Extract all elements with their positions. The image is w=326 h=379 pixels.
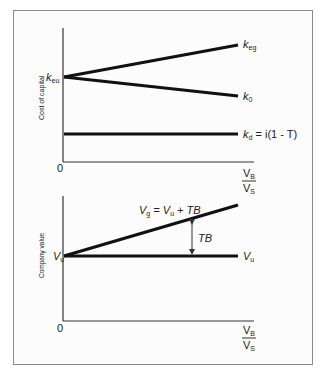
origin-label: 0 xyxy=(57,322,63,334)
keg-label: keg xyxy=(243,38,256,52)
vu-label: Vu xyxy=(243,250,254,263)
vg-label: Vg = Vu + TB xyxy=(139,204,201,218)
k0-label: k0 xyxy=(243,90,253,103)
tb-label: TB xyxy=(198,232,212,244)
keu-label: keu xyxy=(46,71,59,84)
x-axis-fraction-label: VB VS xyxy=(242,324,256,352)
svg-text:VB: VB xyxy=(243,167,255,180)
kd-label: kd = i(1 - T) xyxy=(243,128,297,141)
company-value-chart: Company value Vu Vg = Vu + TB Vu TB 0 VB… xyxy=(38,196,256,352)
cost-of-capital-chart: Cost of capital keu keg k0 kd = i(1 - T)… xyxy=(38,28,297,195)
figure-canvas: Cost of capital keu keg k0 kd = i(1 - T)… xyxy=(0,0,326,379)
svg-text:VB: VB xyxy=(243,324,255,337)
svg-text:VS: VS xyxy=(243,339,255,352)
k0-line xyxy=(64,77,238,96)
y-axis-label: Cost of capital xyxy=(38,75,46,120)
origin-label: 0 xyxy=(57,162,63,174)
keg-line xyxy=(64,45,238,77)
svg-text:VS: VS xyxy=(243,182,255,195)
y-axis-label: Company value xyxy=(38,232,46,278)
x-axis-fraction-label: VB VS xyxy=(242,167,256,195)
